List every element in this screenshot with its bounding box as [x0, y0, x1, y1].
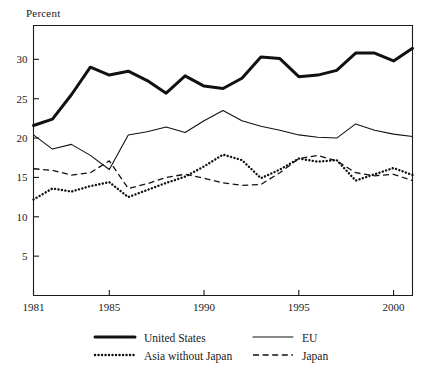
x-axis-ticks: 19811985199019952000 — [23, 290, 406, 313]
y-tick-label: 20 — [17, 132, 29, 144]
chart-container: Percent 51015202530 19811985199019952000… — [0, 0, 427, 371]
legend-label-japan: Japan — [302, 350, 328, 363]
y-tick-label: 25 — [17, 93, 29, 105]
x-tick-label: 2000 — [383, 301, 406, 313]
x-tick-label: 1990 — [193, 301, 216, 313]
series-line-asia-without-japan — [34, 155, 413, 200]
legend-label-asia-without-japan: Asia without Japan — [144, 350, 232, 363]
x-tick-label: 1995 — [288, 301, 311, 313]
y-tick-label: 10 — [17, 211, 29, 223]
y-axis-label: Percent — [26, 7, 60, 19]
legend-label-eu: EU — [302, 332, 318, 344]
y-tick-label: 5 — [22, 250, 28, 262]
chart-legend: United StatesEUAsia without JapanJapan — [95, 332, 328, 363]
y-tick-label: 15 — [17, 171, 29, 183]
x-tick-label: 1981 — [23, 301, 45, 313]
x-tick-label: 1985 — [98, 301, 121, 313]
y-tick-label: 30 — [17, 53, 29, 65]
legend-label-united-states: United States — [144, 332, 206, 344]
line-chart-plot: 51015202530 19811985199019952000 United … — [0, 0, 427, 371]
series-line-united-states — [34, 48, 413, 125]
chart-series-lines — [34, 48, 413, 199]
y-axis-ticks: 51015202530 — [17, 53, 40, 262]
series-line-japan — [34, 155, 413, 188]
series-line-eu — [34, 111, 413, 170]
